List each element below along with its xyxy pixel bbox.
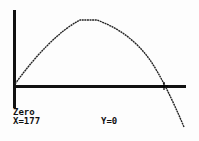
y-axis <box>13 10 16 108</box>
y-value-readout: Y=0 <box>101 117 117 126</box>
function-curve <box>15 20 184 127</box>
calculator-graph-screen: Zero X=177 Y=0 <box>0 0 199 141</box>
x-value-readout: X=177 <box>13 117 40 126</box>
